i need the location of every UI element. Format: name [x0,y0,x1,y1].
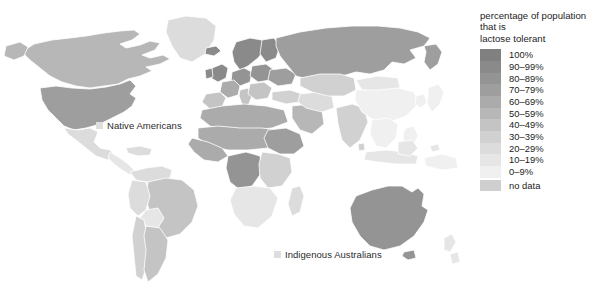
legend-label: 70–79% [509,84,544,96]
region-canada [22,30,170,88]
legend-label: 40–49% [509,119,544,131]
region-japan [427,84,444,112]
legend-label: 0–9% [509,166,533,178]
legend-entry: 60–69% [480,96,606,108]
region-mexico [64,128,116,160]
region-australia [350,186,428,250]
region-alaska [4,42,28,60]
legend-entry: 0–9% [480,166,606,178]
legend-entry: 80–89% [480,73,606,85]
legend-swatch [480,119,501,131]
legend-label: 10–19% [509,154,544,166]
indigenous-australians-label-text: Indigenous Australians [285,249,382,260]
region-new-zealand [444,234,460,264]
region-central-america [108,152,134,175]
legend-entry: 10–19% [480,154,606,166]
legend-label: 60–69% [509,96,544,108]
legend-label: 30–39% [509,131,544,143]
legend-entry: no data [480,180,606,192]
region-sudan-ethiopia [264,128,304,154]
legend-entry: 90–99% [480,61,606,73]
region-sri-lanka [358,143,365,151]
region-papua-islands [430,144,440,152]
legend-label: 20–29% [509,143,544,155]
region-caribbean [126,146,152,156]
map-label-native-americans: Native Americans [96,120,182,131]
legend-swatch [480,84,501,96]
legend-swatch [480,180,501,192]
legend-title: percentage of population that is lactose… [480,10,606,44]
native-americans-label-text: Native Americans [107,120,182,131]
region-madagascar [288,186,304,216]
world-map-svg [0,0,462,295]
region-korea [415,94,427,108]
legend-label: 90–99% [509,61,544,73]
legend-swatch [480,73,501,85]
legend-entry: 40–49% [480,119,606,131]
legend-entry: 100% [480,49,606,61]
region-new-guinea [424,154,458,170]
region-tasmania [402,250,416,260]
legend: percentage of population that is lactose… [478,10,606,191]
legend-entry: 20–29% [480,143,606,155]
legend-swatch [480,61,501,73]
legend-entry: 50–59% [480,108,606,120]
figure-root: Native Americans Indigenous Australians … [0,0,610,295]
region-kamchatka [424,44,442,70]
region-southern-africa [230,186,278,228]
legend-swatch [480,143,501,155]
region-russia [276,26,430,80]
legend-label: no data [509,180,540,192]
region-british-isles [211,64,228,82]
region-dr-congo [226,152,262,190]
legend-swatch [480,96,501,108]
legend-label: 80–89% [509,73,544,85]
legend-swatch [480,131,501,143]
map-label-indigenous-australians: Indigenous Australians [274,249,382,260]
region-east-africa [259,152,292,188]
legend-entry-list: 100%90–99%80–89%70–79%60–69%50–59%40–49%… [480,49,606,191]
legend-swatch [480,154,501,166]
legend-swatch [480,166,501,178]
region-ireland [205,68,213,79]
native-americans-chip [96,122,103,129]
legend-swatch [480,108,501,120]
region-turkey [272,90,302,104]
world-map-panel: Native Americans Indigenous Australians [0,0,462,295]
legend-swatch [480,49,501,61]
legend-entry: 30–39% [480,131,606,143]
legend-label: 50–59% [509,108,544,120]
region-iceland [205,46,221,56]
legend-entry: 70–79% [480,84,606,96]
region-southeast-asia [370,118,398,148]
indigenous-australians-chip [274,251,281,258]
legend-label: 100% [509,49,533,61]
region-argentina [144,226,168,282]
